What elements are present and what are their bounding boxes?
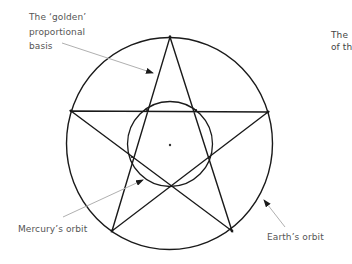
center-point <box>169 144 171 146</box>
side-caption-text: The of th <box>331 29 352 53</box>
golden-pentagram <box>71 37 268 231</box>
golden-basis-label-line-2: proportional <box>29 25 86 40</box>
golden-basis-label-line-1: The ‘golden’ <box>29 10 86 25</box>
side-caption-line-1: The <box>331 29 352 41</box>
earth-orbit-arrow <box>264 200 285 227</box>
golden-basis-label: The ‘golden’ proportional basis <box>29 10 86 54</box>
golden-basis-label-line-3: basis <box>29 39 86 54</box>
earth-orbit-label: Earth’s orbit <box>267 230 324 245</box>
mercury-orbit-label: Mercury’s orbit <box>18 222 87 237</box>
earth-orbit-circle <box>67 38 273 250</box>
side-caption-line-2: of th <box>331 41 352 53</box>
